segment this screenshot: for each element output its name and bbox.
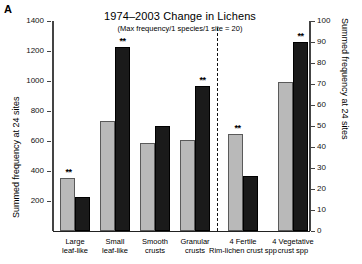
bar-before	[140, 143, 155, 231]
right-tick	[311, 189, 315, 190]
bar-before	[278, 82, 293, 231]
figure-panel: A 1974–2003 Change in Lichens (Max frequ…	[0, 0, 362, 264]
right-tick-label: 80	[317, 59, 357, 67]
bar-after	[155, 126, 170, 231]
right-tick	[311, 147, 315, 148]
category-label: 4 Vegetativecrust spp	[254, 237, 332, 255]
right-tick-label: 60	[317, 101, 357, 109]
left-tick-label: 200	[4, 197, 44, 205]
left-tick	[47, 171, 51, 172]
left-tick	[47, 201, 51, 202]
bar-after	[75, 197, 90, 232]
x-axis-baseline	[53, 231, 310, 232]
right-tick	[311, 84, 315, 85]
right-tick	[311, 42, 315, 43]
chart-title: 1974–2003 Change in Lichens	[60, 10, 300, 22]
right-tick-label: 50	[317, 122, 357, 130]
left-tick	[47, 21, 51, 22]
category-label-line: 4 Vegetative	[254, 237, 332, 246]
left-tick-label: 400	[4, 167, 44, 175]
right-tick-label: 40	[317, 143, 357, 151]
right-tick	[311, 231, 315, 232]
bar-after	[293, 42, 308, 231]
right-tick	[311, 126, 315, 127]
right-tick-label: 70	[317, 80, 357, 88]
right-tick-label: 0	[317, 227, 357, 235]
significance-marker: **	[60, 169, 77, 176]
significance-marker: **	[229, 125, 246, 132]
right-tick	[311, 168, 315, 169]
right-tick-label: 100	[317, 17, 357, 25]
bar-before	[228, 134, 243, 231]
right-tick-label: 20	[317, 185, 357, 193]
significance-marker: **	[114, 38, 131, 45]
panel-letter: A	[4, 3, 12, 15]
left-axis-line	[52, 21, 54, 231]
bar-after	[195, 86, 210, 232]
left-tick-label: 600	[4, 137, 44, 145]
left-tick-label: 1400	[4, 17, 44, 25]
left-tick-label: 1200	[4, 47, 44, 55]
right-tick-label: 10	[317, 206, 357, 214]
group-divider	[217, 28, 218, 231]
bar-before	[180, 140, 195, 232]
left-tick	[47, 51, 51, 52]
significance-marker: **	[194, 77, 211, 84]
significance-marker: **	[292, 33, 309, 40]
chart-subtitle: (Max frequency/1 species/1 site = 20)	[60, 24, 300, 33]
left-tick	[47, 141, 51, 142]
right-tick	[311, 63, 315, 64]
left-tick-label: 1000	[4, 77, 44, 85]
right-tick	[311, 21, 315, 22]
left-tick	[47, 81, 51, 82]
bar-before	[100, 121, 115, 231]
right-tick-label: 90	[317, 38, 357, 46]
left-tick	[47, 111, 51, 112]
category-label-line: crust spp	[254, 246, 332, 255]
right-tick	[311, 210, 315, 211]
left-tick-label: 800	[4, 107, 44, 115]
right-tick	[311, 105, 315, 106]
bar-after	[243, 176, 258, 231]
bar-after	[115, 47, 130, 232]
bar-before	[60, 178, 75, 231]
right-tick-label: 30	[317, 164, 357, 172]
